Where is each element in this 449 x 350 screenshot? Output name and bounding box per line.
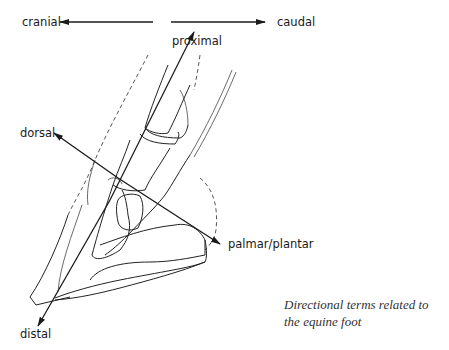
inner-hoof-wall bbox=[58, 205, 82, 292]
palmar-plantar-label: palmar/plantar bbox=[228, 237, 314, 251]
sole-upper bbox=[55, 240, 207, 298]
tendon-line-1 bbox=[190, 70, 232, 155]
coronary-band-line bbox=[87, 160, 95, 205]
pastern-back-dashed bbox=[194, 55, 200, 90]
caption-line-2: the equine foot bbox=[284, 313, 449, 330]
proximal-label: proximal bbox=[172, 34, 222, 48]
deep-flexor-line bbox=[105, 155, 190, 255]
caption-line-1: Directional terms related to bbox=[284, 296, 449, 313]
tendon-line-2 bbox=[194, 72, 236, 157]
heel-bulb-outline bbox=[200, 178, 217, 250]
dorsal-palmar-axis: dorsal palmar/plantar bbox=[20, 126, 314, 251]
cranial-caudal-axis: cranial caudal bbox=[22, 15, 315, 29]
distal-label: distal bbox=[20, 327, 51, 341]
foot-drawing bbox=[30, 55, 236, 305]
proximal-phalanx-front bbox=[145, 65, 190, 134]
dorsal-arrow bbox=[54, 133, 118, 178]
digital-cushion bbox=[90, 224, 205, 280]
caudal-label: caudal bbox=[277, 15, 315, 29]
figure-caption: Directional terms related to the equine … bbox=[284, 296, 449, 330]
proximal-arrow bbox=[110, 32, 194, 200]
middle-phalanx-back bbox=[180, 90, 188, 125]
proximal-distal-axis: proximal distal bbox=[20, 32, 222, 341]
dorsal-label: dorsal bbox=[20, 126, 55, 140]
cranial-label: cranial bbox=[22, 15, 61, 29]
